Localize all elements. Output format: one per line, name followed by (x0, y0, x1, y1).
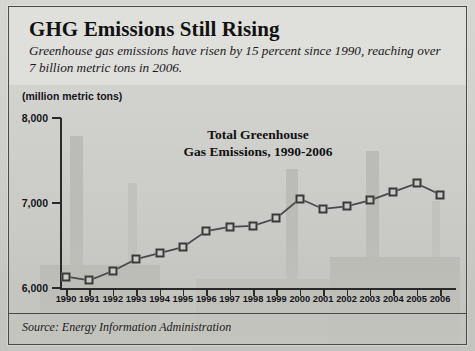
x-axis-label: 2005 (406, 294, 427, 304)
data-point-marker (319, 204, 328, 213)
y-axis-unit-label: (million metric tons) (22, 90, 122, 102)
data-point-marker (108, 267, 117, 276)
x-axis-label: 1996 (196, 294, 217, 304)
data-point-marker (249, 221, 258, 230)
x-axis-label: 1998 (243, 294, 264, 304)
data-point-marker (272, 214, 281, 223)
x-axis-label: 2004 (383, 294, 404, 304)
x-axis-label: 1992 (102, 294, 123, 304)
source-note: Source: Energy Information Administratio… (22, 320, 231, 335)
y-axis-tick (52, 202, 61, 204)
data-point-marker (62, 272, 71, 281)
data-point-marker (202, 227, 211, 236)
x-axis-label: 1995 (173, 294, 194, 304)
data-point-marker (225, 222, 234, 231)
x-axis-label: 2001 (313, 294, 334, 304)
y-axis-tick (52, 117, 61, 119)
data-point-marker (155, 249, 164, 258)
x-axis-label: 2002 (336, 294, 357, 304)
x-axis-label: 1991 (79, 294, 100, 304)
data-point-marker (132, 255, 141, 264)
x-axis-label: 2000 (289, 294, 310, 304)
x-axis-label: 1999 (266, 294, 287, 304)
data-point-marker (389, 187, 398, 196)
x-axis-label: 2006 (430, 294, 451, 304)
y-axis-label: 7,000 (22, 197, 48, 209)
header-band: GHG Emissions Still Rising Greenhouse ga… (9, 7, 466, 85)
x-axis-label: 1990 (56, 294, 77, 304)
y-axis-tick (52, 287, 61, 289)
data-point-marker (85, 276, 94, 285)
x-axis-label: 2003 (360, 294, 381, 304)
y-axis-label: 8,000 (22, 112, 48, 124)
x-axis-label: 1993 (126, 294, 147, 304)
footer-divider (9, 313, 466, 314)
infographic-page: GHG Emissions Still Rising Greenhouse ga… (0, 0, 475, 351)
page-subtitle: Greenhouse gas emissions have risen by 1… (29, 43, 444, 76)
x-axis-label: 1997 (219, 294, 240, 304)
data-point-marker (178, 243, 187, 252)
chart-plot-area: Total Greenhouse Gas Emissions, 1990-200… (60, 118, 456, 290)
y-axis-label: 6,000 (22, 282, 48, 294)
data-point-marker (436, 190, 445, 199)
x-axis-label: 1994 (149, 294, 170, 304)
data-point-marker (365, 196, 374, 205)
data-point-marker (342, 202, 351, 211)
data-point-marker (412, 179, 421, 188)
page-title: GHG Emissions Still Rising (29, 17, 280, 42)
data-point-marker (295, 194, 304, 203)
emissions-line (60, 118, 456, 290)
